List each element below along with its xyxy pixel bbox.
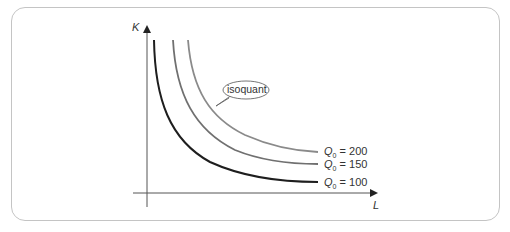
curve-label-150: Q0 = 150 (324, 158, 367, 172)
isoquant-diagram (0, 0, 510, 232)
y-axis-label: K (132, 21, 139, 33)
x-axis-label: L (373, 199, 379, 211)
isoquant-curve-150 (173, 40, 318, 164)
callout-label: isoquant (227, 83, 267, 95)
isoquant-curve-100 (154, 40, 318, 182)
curve-label-100: Q0 = 100 (324, 176, 367, 190)
